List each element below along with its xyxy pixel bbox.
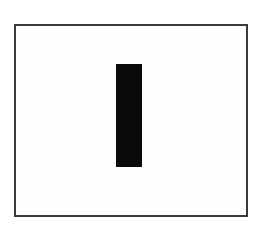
vertical-bar [116, 64, 142, 167]
